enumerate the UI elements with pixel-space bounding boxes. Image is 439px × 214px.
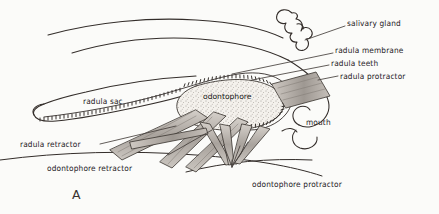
label-radula-protractor: radula protractor <box>340 72 406 82</box>
salivary-gland <box>277 10 313 51</box>
label-salivary-gland: salivary gland <box>347 19 401 29</box>
figure-letter: A <box>72 187 81 202</box>
label-odontophore: odontophore <box>203 92 251 101</box>
head-outline <box>48 19 288 60</box>
label-mouth: mouth <box>306 118 331 128</box>
label-radula-membrane: radula membrane <box>335 46 404 56</box>
label-odontophore-retractor: odontophore retractor <box>47 164 132 174</box>
label-odontophore-protractor: odontophore protractor <box>252 180 342 190</box>
leader-salivary-gland <box>305 26 345 40</box>
anatomy-figure: salivary gland radula membrane radula te… <box>0 0 439 214</box>
label-radula-retractor: radula retractor <box>20 140 81 150</box>
diagram-artwork <box>0 0 439 214</box>
leader-radula-membrane <box>232 53 333 74</box>
label-radula-sac: radula sac <box>83 97 123 107</box>
label-radula-teeth: radula teeth <box>331 59 378 69</box>
leader-radula-protractor <box>318 76 338 80</box>
